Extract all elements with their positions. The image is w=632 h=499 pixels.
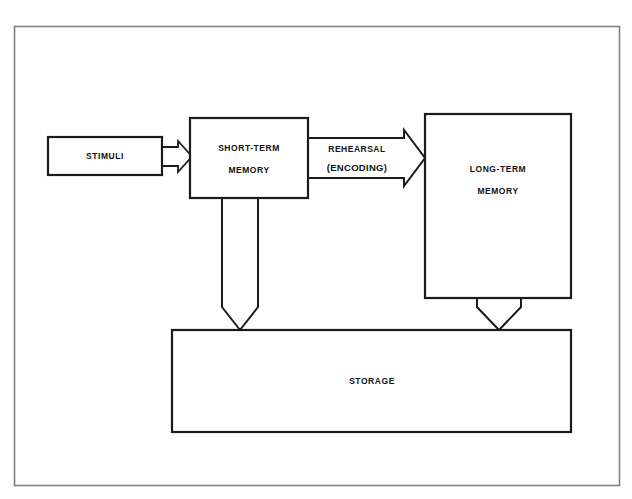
- diagram-canvas: STIMULI REHEARSAL (ENCODING) SHORT-TERM …: [0, 0, 632, 499]
- connector-rehearsal-encoding: [308, 130, 425, 186]
- memory-process-diagram: STIMULI REHEARSAL (ENCODING) SHORT-TERM …: [0, 0, 632, 499]
- node-short-term-memory-label-line1: SHORT-TERM: [218, 143, 280, 153]
- node-long-term-memory-label-line2: MEMORY: [477, 186, 518, 196]
- node-long-term-memory: [425, 114, 571, 298]
- node-storage-label: STORAGE: [349, 376, 395, 386]
- node-short-term-memory: [190, 118, 308, 198]
- node-stimuli-label: STIMULI: [86, 151, 124, 161]
- connector-stm-to-storage: [222, 198, 258, 330]
- connector-rehearsal-label-line1: REHEARSAL: [328, 144, 385, 154]
- node-short-term-memory-label-line2: MEMORY: [228, 165, 269, 175]
- node-long-term-memory-label-line1: LONG-TERM: [470, 164, 526, 174]
- connector-rehearsal-label-line2: (ENCODING): [327, 162, 388, 173]
